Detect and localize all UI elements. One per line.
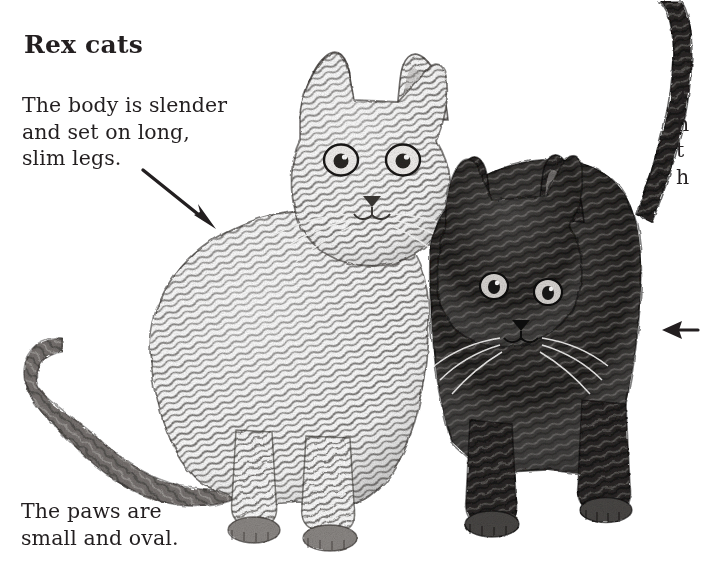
- eye-left: [324, 145, 358, 176]
- eye-right: [534, 279, 562, 305]
- eye-right: [386, 145, 420, 176]
- caption-right-line-4: h: [676, 164, 704, 191]
- caption-paws: The paws are small and oval.: [21, 498, 179, 551]
- caption-body-line-1: The body is slender: [22, 92, 227, 119]
- caption-right-line-2: h: [676, 111, 704, 138]
- caption-paws-line-1: The paws are: [21, 498, 179, 525]
- page-title: Rex cats: [24, 30, 143, 59]
- caption-paws-line-2: small and oval.: [21, 525, 179, 552]
- caption-body-line-3: slim legs.: [22, 145, 227, 172]
- caption-body-line-2: and set on long,: [22, 119, 227, 146]
- caption-right-cropped: T h t h: [676, 84, 704, 190]
- caption-right-line-3: t: [676, 137, 704, 164]
- right-cat: [420, 2, 692, 537]
- caption-body-slender: The body is slender and set on long, sli…: [22, 92, 227, 172]
- eye-left: [480, 273, 508, 299]
- caption-right-line-1: T: [676, 84, 704, 111]
